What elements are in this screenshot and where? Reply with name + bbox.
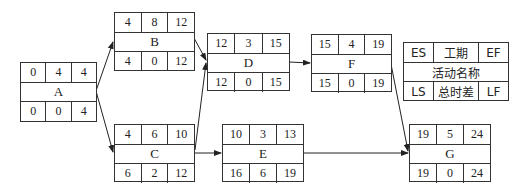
node-b: 4812 B 4012 <box>114 12 195 71</box>
lf: 24 <box>463 164 490 183</box>
node-e: 10313 E 16619 <box>222 124 304 182</box>
legend-es: ES <box>404 43 433 62</box>
ef: 24 <box>463 125 490 144</box>
lf: 4 <box>71 102 96 121</box>
edge-a-b <box>96 42 113 91</box>
lf: 12 <box>167 164 194 183</box>
es: 4 <box>115 13 141 32</box>
ls: 6 <box>115 164 141 183</box>
ls: 12 <box>208 73 234 92</box>
node-a: 044 A 004 <box>20 62 97 122</box>
ls: 4 <box>115 52 141 71</box>
activity-name: F <box>312 55 391 73</box>
legend-duration: 工期 <box>433 43 478 62</box>
activity-name: G <box>410 145 490 163</box>
legend-key: ES工期EF 活动名称 LS总时差LF <box>403 42 509 101</box>
es: 12 <box>208 34 234 53</box>
legend-ef: EF <box>478 43 508 62</box>
duration: 4 <box>338 35 365 54</box>
duration: 5 <box>436 125 463 144</box>
es: 10 <box>223 125 249 144</box>
duration: 3 <box>249 125 276 144</box>
ls: 0 <box>21 102 45 121</box>
total-float: 0 <box>338 74 365 93</box>
lf: 12 <box>167 52 194 71</box>
legend-total-float: 总时差 <box>433 82 478 101</box>
ef: 13 <box>276 125 303 144</box>
es: 19 <box>410 125 436 144</box>
ls: 15 <box>312 74 338 93</box>
lf: 19 <box>364 74 391 93</box>
total-float: 6 <box>249 164 276 183</box>
legend-lf: LF <box>478 82 508 101</box>
legend-ls: LS <box>404 82 433 101</box>
es: 0 <box>21 63 45 82</box>
lf: 15 <box>262 73 289 92</box>
node-g: 19524 G 19024 <box>409 124 491 182</box>
es: 15 <box>312 35 338 54</box>
activity-name: C <box>115 145 194 163</box>
node-d: 12315 D 12015 <box>207 33 290 91</box>
activity-name: D <box>208 54 289 72</box>
activity-name: E <box>223 145 303 163</box>
duration: 8 <box>141 13 168 32</box>
es: 4 <box>115 125 141 144</box>
ef: 19 <box>364 35 391 54</box>
total-float: 0 <box>45 102 70 121</box>
ef: 4 <box>71 63 96 82</box>
lf: 19 <box>276 164 303 183</box>
ef: 15 <box>262 34 289 53</box>
edge-c-d <box>195 63 206 150</box>
node-f: 15419 F 15019 <box>311 34 392 92</box>
total-float: 2 <box>141 164 168 183</box>
edge-b-d <box>194 38 206 60</box>
ef: 10 <box>167 125 194 144</box>
total-float: 0 <box>436 164 463 183</box>
activity-name: B <box>115 33 194 51</box>
duration: 6 <box>141 125 168 144</box>
duration: 4 <box>45 63 70 82</box>
edge-d-f <box>289 62 310 63</box>
edge-a-c <box>96 91 113 152</box>
ls: 16 <box>223 164 249 183</box>
legend-activity-name: 活动名称 <box>404 63 508 81</box>
activity-name: A <box>21 83 96 101</box>
node-c: 4610 C 6212 <box>114 124 195 182</box>
total-float: 0 <box>141 52 168 71</box>
duration: 3 <box>234 34 261 53</box>
ef: 12 <box>167 13 194 32</box>
ls: 19 <box>410 164 436 183</box>
total-float: 0 <box>234 73 261 92</box>
